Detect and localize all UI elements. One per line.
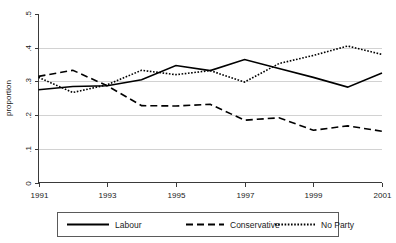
y-tick-label: 0 — [24, 181, 33, 186]
line-chart-figure: 0.1.2.3.4.5 199119931995199719992001 pro… — [0, 0, 396, 243]
x-tick-label: 2001 — [374, 191, 392, 200]
y-tick-label: .4 — [24, 45, 33, 52]
chart-background — [0, 0, 396, 243]
legend-label-conservative: Conservative — [230, 220, 280, 230]
y-tick-label: .3 — [24, 78, 33, 85]
y-axis-title: proportion — [4, 80, 13, 116]
legend-label-labour: Labour — [115, 220, 142, 230]
x-tick-label: 1991 — [31, 191, 49, 200]
x-tick-label: 1997 — [237, 191, 255, 200]
x-tick-label: 1993 — [99, 191, 117, 200]
x-tick-label: 1999 — [305, 191, 323, 200]
x-tick-label: 1995 — [168, 191, 186, 200]
y-tick-label: .1 — [24, 146, 33, 153]
y-tick-label: .5 — [24, 11, 33, 18]
legend-label-no-party: No Party — [321, 220, 355, 230]
y-tick-label: .2 — [24, 112, 33, 119]
